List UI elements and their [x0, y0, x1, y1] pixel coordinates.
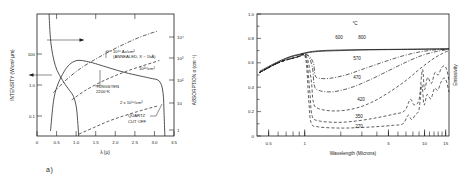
x-tick-label-a-5: 2.5	[132, 140, 139, 145]
y-tick-label-b-4: 0.8	[248, 36, 255, 41]
x-tick-label-b-2: 5	[387, 141, 390, 146]
chart-b-svg: 0 0.2 0.4 0.6 0.8 1.0 Emissivity 0.51510…	[231, 0, 462, 165]
unit-label-celsius: °C	[352, 21, 358, 26]
annotation-quartz-cutoff: CUT OFF	[128, 119, 147, 124]
annotation-tungsten: TUNGSTEN	[96, 84, 119, 89]
subfigure-caption-a: a)	[46, 166, 53, 173]
curve-label-470: 470	[353, 75, 361, 80]
y2-tick-label-a-4: 1	[177, 128, 180, 133]
x-tick-label-a-0: 0	[36, 140, 39, 145]
y-tick-label-b-3: 0.6	[248, 60, 255, 65]
annotation-implant-dose: 10¹⁶ As/cm²	[113, 49, 135, 54]
figure-container: 100 1.0 0.1 10⁴ 10³ 10² 10 1	[0, 0, 462, 187]
chart-a-svg: 100 1.0 0.1 10⁴ 10³ 10² 10 1	[0, 0, 231, 165]
leader-quartz	[150, 104, 162, 116]
y-tick-label-b-0: 0	[252, 134, 255, 139]
x-tick-label-b-3: 10	[422, 141, 427, 146]
chart-panel-a: 100 1.0 0.1 10⁴ 10³ 10² 10 1	[0, 0, 231, 187]
curve-label-600: 600	[335, 35, 343, 40]
y-axis-label-a: INTENSITY (W/cm² μm)	[10, 49, 15, 101]
x-tick-label-a-1: 0.5	[54, 140, 61, 145]
x-axis-ticks-b	[269, 130, 446, 137]
x-axis-label-b: Wavelength (Microns)	[330, 151, 377, 156]
data-curves-a	[49, 14, 165, 136]
x-axis-tick-labels-b: 0.5151015	[266, 141, 449, 146]
chart-panel-b: 0 0.2 0.4 0.6 0.8 1.0 Emissivity 0.51510…	[231, 0, 462, 187]
curve-emissivity-350c	[260, 54, 449, 122]
x-axis-ticks-a	[37, 131, 174, 136]
y-tick-label-a-1: 1.0	[29, 83, 36, 88]
y-tick-label-b-2: 0.4	[248, 85, 255, 90]
x-tick-label-b-0: 0.5	[266, 141, 273, 146]
y-tick-label-a-2: 0.1	[29, 114, 36, 119]
y-tick-label-b-1: 0.2	[248, 109, 255, 114]
y2-axis-label-a: ABSORPTION α (cm⁻¹)	[192, 54, 197, 105]
x-axis-ticks-top-a	[57, 14, 135, 19]
annotation-doping-2e18: 2 x 10¹⁸/cm³	[120, 100, 143, 105]
x-tick-label-a-3: 1.5	[93, 140, 100, 145]
y2-tick-label-a-1: 10³	[177, 56, 184, 61]
curve-label-270: 270	[355, 124, 363, 129]
y-axis-ticks-left-a	[37, 54, 42, 116]
y-tick-label-b-5: 1.0	[248, 12, 255, 17]
curve-label-570: 570	[353, 56, 361, 61]
curve-label-420: 420	[357, 97, 365, 102]
x-axis-label-a: λ (μ)	[100, 150, 110, 155]
x-tick-label-b-4: 15	[443, 141, 448, 146]
y-tick-label-a-0: 100	[28, 52, 36, 57]
annotation-doping-1e20: 10²⁰/cm³	[139, 66, 155, 71]
y2-tick-label-a-2: 10²	[177, 78, 184, 83]
annotations-a: 10¹⁶ As/cm² (ANNEALED, X ~ 1kÅ) 10²⁰/cm³…	[95, 49, 162, 124]
x-tick-label-a-6: 3.0	[151, 140, 158, 145]
y2-tick-label-a-3: 10	[177, 101, 182, 106]
x-tick-label-a-4: 2.0	[112, 140, 119, 145]
x-tick-label-a-2: 1.0	[73, 140, 80, 145]
annotation-implant-anneal: (ANNEALED, X ~ 1kÅ)	[113, 54, 156, 59]
curve-label-800: 800	[358, 35, 366, 40]
curve-quartz-cutoff	[49, 14, 79, 136]
y-axis-ticks-right-a	[169, 37, 174, 130]
curve-tungsten-intensity	[51, 60, 165, 136]
x-tick-label-a-7: 3.5	[171, 140, 178, 145]
y-axis-ticks-b	[257, 14, 261, 136]
y2-tick-label-a-0: 10⁴	[177, 35, 184, 40]
x-tick-label-b-1: 1	[303, 141, 306, 146]
annotation-quartz: QUARTZ	[128, 113, 146, 118]
y-axis-label-b: Emissivity	[453, 64, 458, 86]
annotation-tungsten-temp: 2200°K	[96, 89, 110, 94]
curve-label-350: 350	[355, 114, 363, 119]
